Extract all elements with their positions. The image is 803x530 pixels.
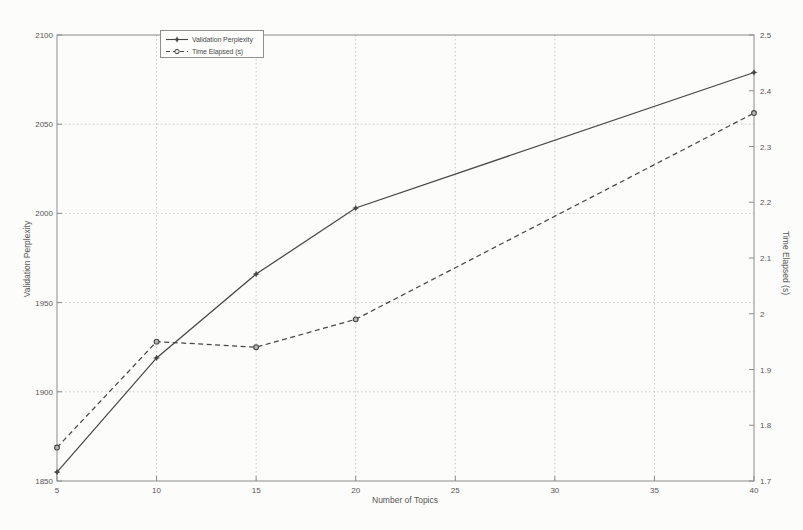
y-right-tick-label: 2.4 [760,87,772,96]
y-right-tick-label: 2 [760,310,765,319]
x-tick-label: 20 [351,486,360,495]
legend-label: Validation Perplexity [192,36,253,43]
y-axis-label-right: Time Elapsed (s) [781,231,791,295]
y-left-tick-label: 1900 [35,388,53,397]
star-marker [352,205,359,212]
line-chart-figure: 5101520253035401850190019502000205021001… [0,0,803,530]
y-left-tick-label: 2000 [35,209,53,218]
x-tick-label: 15 [252,486,261,495]
x-tick-label: 5 [55,486,60,495]
circle-marker [752,111,757,116]
y-right-tick-label: 2.5 [760,31,772,40]
circle-marker [254,345,259,350]
y-right-tick-label: 1.9 [760,366,772,375]
y-left-tick-label: 2050 [35,120,53,129]
y-right-tick-label: 1.7 [760,477,772,486]
legend: Validation Perplexity Time Elapsed (s) [160,30,264,58]
y-right-tick-label: 2.2 [760,198,772,207]
legend-label: Time Elapsed (s) [192,48,243,55]
series-line-1 [57,113,754,447]
x-tick-label: 10 [152,486,161,495]
y-left-tick-label: 1850 [35,477,53,486]
circle-marker [154,339,159,344]
y-right-tick-label: 2.1 [760,254,772,263]
circle-marker [353,317,358,322]
y-left-tick-label: 1950 [35,299,53,308]
circle-marker [55,445,60,450]
x-tick-label: 30 [550,486,559,495]
legend-item-time-elapsed: Time Elapsed (s) [165,45,263,57]
y-left-tick-label: 2100 [35,31,53,40]
dashed-line-circle-marker-icon [165,47,189,56]
solid-line-star-marker-icon [165,35,189,44]
legend-item-validation-perplexity: Validation Perplexity [165,33,263,45]
chart-plot-area: 5101520253035401850190019502000205021001… [0,0,803,530]
plot-border [57,35,754,481]
x-tick-label: 40 [750,486,759,495]
y-right-tick-label: 1.8 [760,421,772,430]
x-axis-label: Number of Topics [372,495,438,505]
x-tick-label: 25 [451,486,460,495]
x-tick-label: 35 [650,486,659,495]
star-marker [751,69,758,76]
y-axis-label-left: Validation Perplexity [22,221,32,297]
scanned-figure-page: 5101520253035401850190019502000205021001… [0,0,803,530]
series-line-0 [57,73,754,473]
y-right-tick-label: 2.3 [760,143,772,152]
